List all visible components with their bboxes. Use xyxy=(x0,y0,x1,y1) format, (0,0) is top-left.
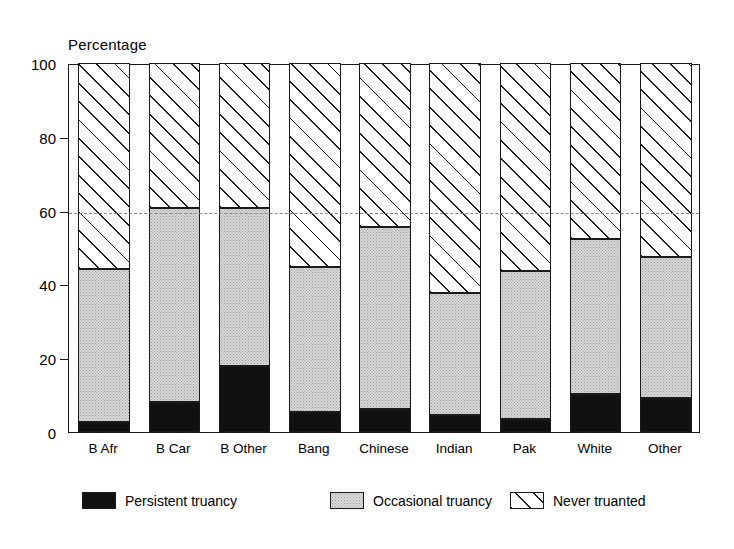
legend-item[interactable]: Occasional truancy xyxy=(330,492,492,509)
x-axis-label-white: White xyxy=(577,441,612,456)
y-axis-tick-label: 0 xyxy=(10,425,56,442)
bar-segment-persistent[interactable] xyxy=(429,415,481,432)
y-axis-tick-mark xyxy=(60,212,68,213)
y-axis-tick-label: 20 xyxy=(10,351,56,368)
bar-segment-occasional[interactable] xyxy=(640,257,692,398)
y-axis-tick-label: 60 xyxy=(10,203,56,220)
x-axis-label-pak: Pak xyxy=(513,441,536,456)
y-axis-tick-mark xyxy=(60,359,68,360)
stacked-bar[interactable] xyxy=(640,65,692,432)
bar-slot xyxy=(490,65,560,432)
bar-segment-never[interactable] xyxy=(78,63,130,269)
chart-canvas: Percentage 020406080100 B AfrB CarB Othe… xyxy=(0,0,734,549)
legend-label: Never truanted xyxy=(553,493,646,509)
bar-segment-occasional[interactable] xyxy=(289,267,341,412)
hatch-swatch xyxy=(510,492,544,509)
x-axis-label-b-other: B Other xyxy=(220,441,267,456)
x-axis-label-b-car: B Car xyxy=(156,441,191,456)
stacked-bar[interactable] xyxy=(359,65,411,432)
bar-segment-persistent[interactable] xyxy=(219,366,271,432)
stipple-swatch xyxy=(330,492,364,509)
legend-item[interactable]: Persistent truancy xyxy=(82,492,237,509)
legend-label: Occasional truancy xyxy=(373,493,492,509)
stacked-bar[interactable] xyxy=(289,65,341,432)
legend-label: Persistent truancy xyxy=(125,493,237,509)
bar-slot xyxy=(420,65,490,432)
y-axis-tick-mark xyxy=(60,285,68,286)
y-axis-tick-label: 80 xyxy=(10,129,56,146)
bar-segment-never[interactable] xyxy=(570,63,622,239)
x-axis-labels: B AfrB CarB OtherBangChineseIndianPakWhi… xyxy=(68,441,700,465)
y-axis-title: Percentage xyxy=(68,36,147,53)
bar-slot xyxy=(561,65,631,432)
bar-slot xyxy=(280,65,350,432)
bar-segment-never[interactable] xyxy=(429,63,481,293)
y-axis-tick-label: 100 xyxy=(10,56,56,73)
bar-slot xyxy=(350,65,420,432)
bar-segment-never[interactable] xyxy=(640,63,692,257)
bar-segment-persistent[interactable] xyxy=(359,409,411,432)
bar-segment-never[interactable] xyxy=(359,63,411,227)
bar-segment-occasional[interactable] xyxy=(78,269,130,422)
x-axis-label-b-afr: B Afr xyxy=(88,441,117,456)
bar-segment-never[interactable] xyxy=(289,63,341,267)
y-axis-labels: 020406080100 xyxy=(0,0,56,549)
legend-item[interactable]: Never truanted xyxy=(510,492,646,509)
x-axis-label-bang: Bang xyxy=(298,441,330,456)
stacked-bar[interactable] xyxy=(219,65,271,432)
y-axis-tick-mark xyxy=(60,138,68,139)
bar-segment-occasional[interactable] xyxy=(570,239,622,394)
stacked-bar[interactable] xyxy=(429,65,481,432)
bar-slot xyxy=(139,65,209,432)
bar-segment-persistent[interactable] xyxy=(640,398,692,432)
bar-segment-never[interactable] xyxy=(500,63,552,271)
bar-segment-occasional[interactable] xyxy=(500,271,552,419)
bar-segment-occasional[interactable] xyxy=(359,227,411,409)
stacked-bar[interactable] xyxy=(500,65,552,432)
chart-legend: Persistent truancyOccasional truancyNeve… xyxy=(0,492,734,526)
solid-black-swatch xyxy=(82,492,116,509)
y-axis-tick-label: 40 xyxy=(10,277,56,294)
bar-segment-persistent[interactable] xyxy=(289,412,341,432)
stacked-bar[interactable] xyxy=(149,65,201,432)
bar-slot xyxy=(631,65,701,432)
bar-segment-occasional[interactable] xyxy=(219,208,271,366)
bar-segment-never[interactable] xyxy=(219,63,271,208)
bar-group xyxy=(69,65,699,432)
x-axis-label-chinese: Chinese xyxy=(359,441,409,456)
bar-segment-persistent[interactable] xyxy=(78,422,130,432)
bar-segment-persistent[interactable] xyxy=(149,402,201,432)
bar-segment-occasional[interactable] xyxy=(429,293,481,416)
plot-area xyxy=(68,64,700,433)
bar-slot xyxy=(209,65,279,432)
stacked-bar[interactable] xyxy=(570,65,622,432)
bar-segment-occasional[interactable] xyxy=(149,208,201,402)
bar-segment-persistent[interactable] xyxy=(500,419,552,432)
stacked-bar[interactable] xyxy=(78,65,130,432)
bar-segment-persistent[interactable] xyxy=(570,394,622,432)
bar-segment-never[interactable] xyxy=(149,63,201,208)
x-axis-label-other: Other xyxy=(648,441,682,456)
x-axis-label-indian: Indian xyxy=(436,441,473,456)
bar-slot xyxy=(69,65,139,432)
